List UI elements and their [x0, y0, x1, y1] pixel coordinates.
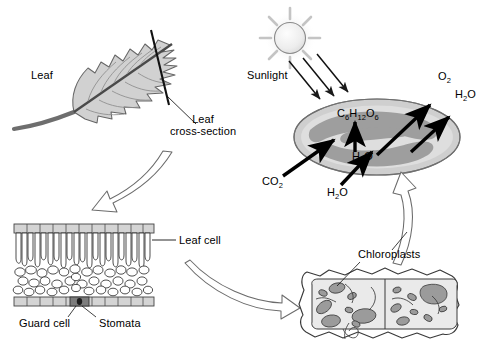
h2o-out-h: H: [455, 88, 463, 100]
leaf-cell-label: Leaf cell: [179, 234, 221, 246]
leaf-cross-section-label: Leaf cross-section: [170, 113, 236, 137]
o2-sub: 2: [447, 76, 451, 85]
o2-text: O: [438, 70, 447, 82]
guard-cell-label: Guard cell: [19, 317, 70, 329]
h2o-out-label: H2O: [455, 88, 476, 105]
leaf-label: Leaf: [31, 69, 53, 81]
water-inside-formula: H2O: [352, 150, 373, 167]
h2o-in-o: O: [339, 186, 348, 198]
leaf-cross-section-illustration: [13, 224, 176, 317]
h2o-in-h: H: [327, 186, 335, 198]
arrow-leaf-to-cross-section: [92, 151, 172, 212]
upper-epidermis: [14, 224, 154, 233]
co2-text: CO: [262, 175, 279, 187]
glucose-o-sub: 6: [375, 113, 379, 122]
sun-disc: [275, 23, 306, 54]
o2-label: O2: [438, 70, 451, 87]
guard-cell-leader: [68, 306, 76, 317]
glucose-h-sub: 12: [357, 113, 366, 122]
h2o-out-o: O: [467, 88, 476, 100]
sun-illustration: [260, 8, 320, 68]
stomatal-pore: [77, 298, 82, 305]
water-inside-o: O: [364, 150, 373, 162]
stomata-leader: [82, 306, 96, 317]
water-inside-h: H: [352, 150, 360, 162]
arrow-cross-section-to-cell: [185, 260, 300, 319]
co2-sub: 2: [279, 181, 283, 190]
sunlight-label: Sunlight: [247, 69, 288, 81]
leaf-cross-section-label-line1: Leaf: [170, 113, 236, 125]
stomata-label: Stomata: [99, 317, 141, 329]
h2o-in-label: H2O: [327, 186, 348, 203]
glucose-formula: C6H12O6: [337, 107, 379, 124]
co2-label: CO2: [262, 175, 283, 192]
diagram-canvas: [0, 0, 493, 356]
glucose-o: O: [366, 107, 375, 119]
photosynthesis-diagram: Leaf Leaf cross-section Sunlight C6H12O6…: [0, 0, 493, 356]
leaf-cross-section-label-line2: cross-section: [170, 125, 236, 137]
spongy-mesophyll: [13, 265, 152, 296]
chloroplasts-label: Chloroplasts: [358, 248, 420, 260]
leaf-petiole: [14, 112, 74, 129]
glucose-c: C: [337, 107, 345, 119]
palisade-mesophyll: [16, 233, 150, 268]
